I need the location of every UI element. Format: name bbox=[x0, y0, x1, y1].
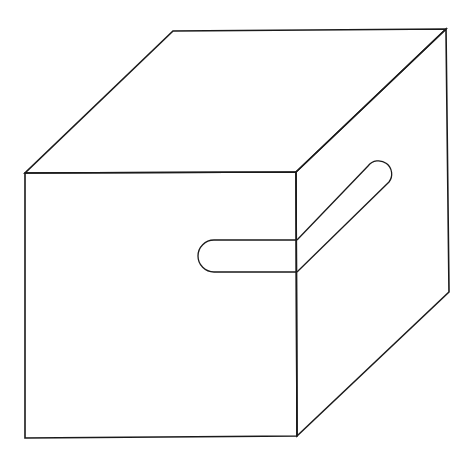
word-search-cube bbox=[0, 0, 474, 457]
right-face bbox=[296, 29, 449, 436]
front-face bbox=[25, 172, 297, 438]
top-face bbox=[25, 29, 446, 173]
found-word-loop-front bbox=[198, 240, 296, 272]
found-word-loop-right bbox=[297, 161, 392, 272]
cube-drawing bbox=[0, 0, 474, 457]
